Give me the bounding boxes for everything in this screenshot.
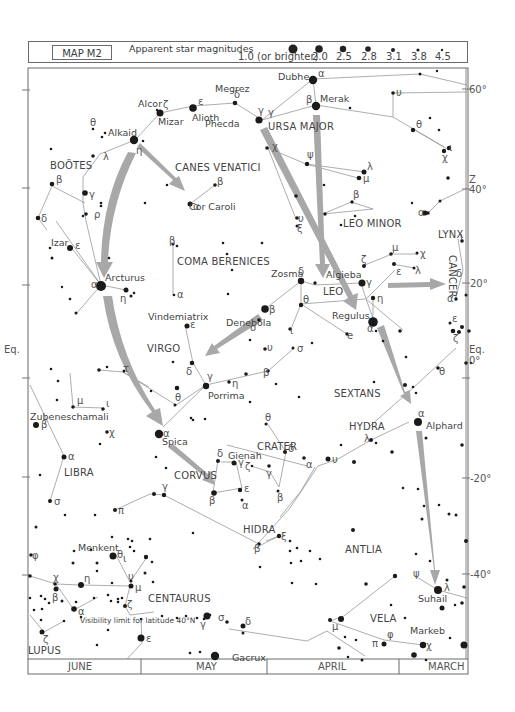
svg-text:ε: ε (396, 266, 401, 277)
svg-text:Eq.: Eq. (4, 344, 20, 355)
constellation-labels: BOÖTES CANES VENATICI URSA MAJOR LEO MIN… (28, 121, 463, 656)
svg-text:ι: ι (290, 325, 294, 336)
svg-text:ξ: ξ (297, 223, 303, 234)
svg-text:γ: γ (207, 371, 213, 382)
svg-text:ε: ε (190, 319, 195, 330)
svg-text:LIBRA: LIBRA (64, 467, 94, 478)
svg-text:λ: λ (415, 265, 421, 276)
svg-text:2.5: 2.5 (336, 51, 352, 62)
svg-text:α: α (163, 428, 170, 439)
svg-text:δ: δ (245, 616, 251, 627)
svg-text:α: α (418, 408, 425, 419)
svg-text:β: β (56, 174, 62, 185)
magnitude-scale: 1.0 (or brighter) 2.0 2.5 2.8 3.1 3.8 4.… (238, 45, 451, 63)
svg-text:VIRGO: VIRGO (147, 343, 180, 354)
svg-text:α: α (242, 500, 249, 511)
svg-text:θ: θ (416, 119, 422, 130)
svg-text:LEO MINOR: LEO MINOR (343, 218, 402, 229)
svg-text:χ: χ (272, 141, 278, 152)
svg-text:VELA: VELA (370, 613, 397, 624)
svg-text:υ: υ (396, 87, 402, 98)
svg-text:μ: μ (77, 395, 84, 406)
svg-text:γ: γ (366, 277, 372, 288)
svg-text:γ: γ (238, 457, 244, 468)
svg-text:φ: φ (32, 550, 39, 561)
svg-text:20°: 20° (470, 278, 488, 289)
svg-text:Dubhe: Dubhe (278, 71, 309, 82)
svg-text:Gienah: Gienah (228, 450, 262, 461)
svg-text:CORVUS: CORVUS (174, 470, 217, 481)
svg-text:μ: μ (363, 173, 370, 184)
svg-text:Merak: Merak (320, 93, 350, 104)
svg-text:0°: 0° (469, 355, 480, 366)
svg-text:2.8: 2.8 (361, 51, 377, 62)
svg-text:θ: θ (303, 294, 309, 305)
svg-text:Alphard: Alphard (426, 420, 463, 431)
svg-text:χ: χ (109, 427, 115, 438)
svg-text:SEXTANS: SEXTANS (334, 388, 381, 399)
svg-text:3.1: 3.1 (386, 51, 402, 62)
svg-text:α: α (193, 201, 200, 212)
svg-text:ψ: ψ (307, 149, 314, 160)
svg-text:Markeb: Markeb (410, 625, 445, 636)
svg-text:ε: ε (146, 633, 151, 644)
svg-text:η: η (377, 293, 383, 304)
star-map: 1.0 (or brighter) 2.0 2.5 2.8 3.1 3.8 4.… (0, 0, 515, 712)
svg-text:Algieba: Algieba (326, 269, 362, 280)
svg-text:ζ: ζ (43, 634, 48, 645)
svg-text:ε: ε (198, 96, 203, 107)
svg-text:π: π (118, 505, 124, 516)
svg-text:CANES VENATICI: CANES VENATICI (175, 162, 261, 173)
svg-text:σ: σ (297, 343, 304, 354)
svg-text:β: β (209, 495, 215, 506)
svg-text:β: β (306, 94, 312, 105)
svg-text:η: η (120, 293, 126, 304)
svg-text:β: β (277, 492, 283, 503)
svg-text:40°: 40° (469, 184, 487, 195)
visibility-note: Visibility limit for latitude 40°N (80, 616, 195, 625)
svg-text:δ: δ (41, 213, 47, 224)
stars (28, 70, 472, 662)
svg-text:Megrez: Megrez (215, 83, 250, 94)
svg-text:Vindemiatrix: Vindemiatrix (148, 311, 209, 322)
svg-text:γ: γ (258, 105, 264, 116)
svg-text:MAY: MAY (196, 661, 218, 672)
svg-text:λ: λ (364, 433, 370, 444)
svg-text:-20°: -20° (470, 473, 491, 484)
svg-text:δ: δ (456, 268, 462, 279)
svg-text:-40°: -40° (470, 569, 491, 580)
svg-text:CENTAURUS: CENTAURUS (148, 593, 211, 604)
svg-text:α: α (447, 293, 454, 304)
svg-text:α: α (177, 289, 184, 300)
svg-text:JUNE: JUNE (67, 661, 92, 672)
svg-text:δ: δ (288, 443, 294, 454)
svg-text:β: β (169, 235, 175, 246)
svg-text:ζ: ζ (361, 254, 366, 265)
svg-text:ι: ι (449, 142, 453, 153)
svg-text:ι: ι (123, 553, 127, 564)
svg-text:α: α (306, 459, 313, 470)
svg-text:β: β (217, 176, 223, 187)
svg-text:α: α (418, 207, 425, 218)
svg-text:σ: σ (218, 612, 225, 623)
svg-text:Eq.: Eq. (469, 344, 485, 355)
svg-text:Porrima: Porrima (208, 390, 245, 401)
svg-text:Alcor: Alcor (138, 98, 162, 109)
svg-text:υ: υ (332, 454, 338, 465)
svg-text:ι: ι (106, 398, 110, 409)
svg-text:ε: ε (452, 313, 457, 324)
svg-text:BOÖTES: BOÖTES (50, 159, 92, 171)
svg-text:π: π (372, 638, 378, 649)
svg-text:ANTLIA: ANTLIA (345, 544, 382, 555)
svg-text:μ: μ (332, 621, 339, 632)
svg-text:λ: λ (444, 582, 450, 593)
svg-text:λ: λ (367, 161, 373, 172)
svg-text:θ: θ (265, 412, 271, 423)
svg-text:β: β (269, 304, 275, 315)
svg-text:δ: δ (234, 89, 240, 100)
svg-text:ε: ε (75, 240, 80, 251)
svg-text:η: η (84, 573, 90, 584)
svg-text:ψ: ψ (413, 568, 420, 579)
svg-text:1.0 (or brighter): 1.0 (or brighter) (238, 51, 318, 62)
svg-text:γ: γ (266, 468, 272, 479)
